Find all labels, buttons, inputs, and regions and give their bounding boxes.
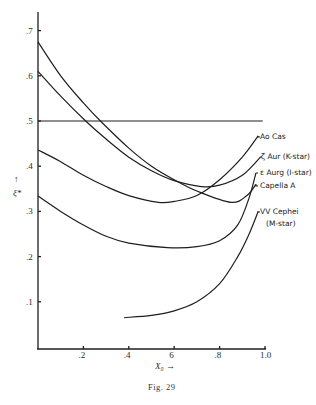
x-tick-label: 1.0 <box>260 350 272 360</box>
y-tick-label: .6 <box>26 71 33 81</box>
label-vv-cephei-type: (M-star) <box>266 219 296 228</box>
x-ticks: .2.46.81.0 <box>78 346 271 360</box>
y-tick-label: .5 <box>26 116 33 126</box>
label-zeta-aur: ζ Aur (K-star) <box>261 152 310 161</box>
x-tick-label: .8 <box>215 350 222 360</box>
label-vv-cephei: VV Cephei <box>260 207 299 216</box>
y-axis-title: ξ* <box>13 188 22 198</box>
x-tick-label: 6 <box>169 350 174 360</box>
x-tick-label: .2 <box>78 350 85 360</box>
label-ao-cas: Ao Cas <box>260 132 286 141</box>
y-tick-label: .1 <box>26 297 33 307</box>
label-capella: Capella A <box>260 181 296 190</box>
plot-curves <box>38 42 263 318</box>
y-tick-label: .7 <box>26 26 33 36</box>
chart: .1.2.3.4.5.6.7 .2.46.81.0 ↑ ξ* X₀ → Fig.… <box>0 0 316 405</box>
y-ticks: .1.2.3.4.5.6.7 <box>26 26 41 307</box>
label-leader-line <box>256 184 258 186</box>
x-tick-label: .4 <box>124 350 131 360</box>
figure-caption: Fig. 29 <box>148 382 176 392</box>
x-axis-title: X₀ → <box>154 361 175 371</box>
y-tick-label: .2 <box>26 252 33 262</box>
curve-vv-cephei-m-star <box>124 211 258 317</box>
curve-capella-a <box>38 42 256 203</box>
y-axis-arrow: ↑ <box>14 174 19 184</box>
y-tick-label: .4 <box>26 161 33 171</box>
y-tick-label: .3 <box>26 206 33 216</box>
label-eps-aur: ε Aurg (I-star) <box>260 168 312 177</box>
